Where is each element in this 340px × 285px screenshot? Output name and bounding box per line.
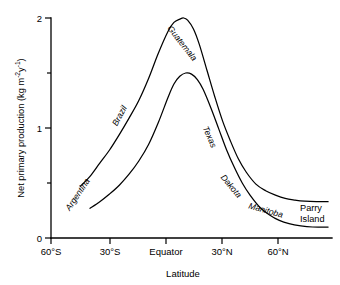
y-axis-title: Net primary production (kg m-2y-1)	[14, 58, 26, 197]
curve-label-manitoba-group: Manitoba	[247, 200, 284, 219]
x-tick-label-60S: 60°S	[41, 246, 62, 257]
curve-label-parry-island-line1: Parry	[300, 203, 322, 213]
y-axis-ticks	[45, 18, 51, 238]
curve-label-manitoba: Manitoba	[247, 200, 284, 219]
curve-lower-envelope	[90, 73, 328, 227]
curve-label-argentina-group: Argentina	[63, 176, 93, 213]
x-tick-label-60N: 60°N	[267, 246, 288, 257]
curve-label-texas-group: Texas	[201, 124, 220, 149]
chart-svg: 2 1 0 Net primary production (kg m-2y-1)…	[0, 0, 340, 285]
curve-label-parry-island-line2: Island	[300, 214, 325, 224]
y-tick-label-1: 1	[37, 123, 42, 134]
chart-figure: 2 1 0 Net primary production (kg m-2y-1)…	[0, 0, 340, 285]
x-tick-label-equator: Equator	[149, 246, 182, 257]
x-tick-label-30S: 30°S	[100, 246, 121, 257]
curve-label-dakota: Dakota	[219, 172, 244, 199]
x-axis-title: Latitude	[166, 268, 200, 279]
x-tick-label-30N: 30°N	[211, 246, 232, 257]
y-axis-title-end: )	[16, 58, 26, 61]
y-axis-title-main: Net primary production (kg m	[16, 78, 26, 198]
y-tick-label-0: 0	[37, 233, 42, 244]
curve-label-dakota-group: Dakota	[219, 172, 244, 199]
curve-label-argentina: Argentina	[63, 176, 93, 213]
y-tick-label-2: 2	[37, 13, 42, 24]
curve-label-texas: Texas	[201, 124, 220, 149]
x-axis-ticks	[51, 238, 278, 244]
svg-text:Net primary production (kg m-2: Net primary production (kg m-2y-1)	[14, 58, 26, 197]
